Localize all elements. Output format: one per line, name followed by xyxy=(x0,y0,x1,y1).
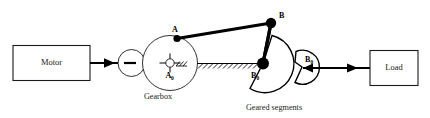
point-a-label: A xyxy=(172,25,178,34)
joint-b: B xyxy=(266,11,285,28)
gearbox-pinion xyxy=(118,50,145,77)
b0-pivot-dot xyxy=(257,58,269,70)
motor-block: Motor xyxy=(13,46,90,81)
geared-segments-caption: Geared segments xyxy=(246,103,302,112)
a-pivot-dot xyxy=(173,35,180,42)
diagram-canvas: Motor xyxy=(0,0,430,118)
mechanism-diagram: Motor xyxy=(0,0,430,118)
ground-hatching-icon xyxy=(197,64,263,69)
crank-disc: A 0 xyxy=(143,36,198,91)
motor-label: Motor xyxy=(41,57,62,67)
gearbox-caption: Gearbox xyxy=(144,92,172,101)
load-label: Load xyxy=(385,62,403,72)
arrow-right-icon xyxy=(104,58,115,68)
coupler-link-ab xyxy=(177,23,271,39)
geared-segment-left xyxy=(250,23,294,93)
b-pivot-dot xyxy=(266,18,276,28)
point-b0-subscript: 0 xyxy=(257,75,260,81)
point-b-label: B xyxy=(279,11,285,20)
load-block: Load xyxy=(370,51,418,86)
point-a0-subscript: 0 xyxy=(171,75,174,81)
arrow-right-icon xyxy=(347,63,358,72)
link-ab-bar xyxy=(177,23,271,39)
